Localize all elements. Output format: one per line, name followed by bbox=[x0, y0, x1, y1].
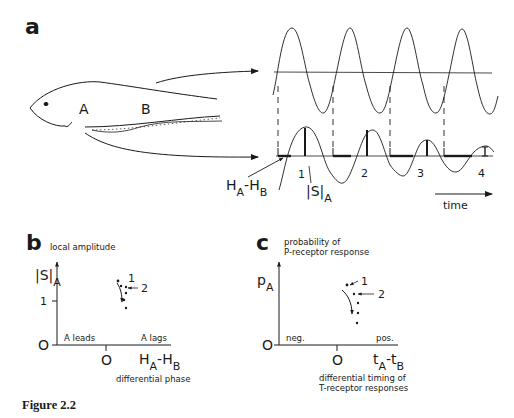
panel-c-y-title-line2: P-receptor response bbox=[284, 247, 369, 257]
panel-b-region-left: A leads bbox=[64, 333, 96, 343]
upper-sine-trace bbox=[273, 28, 498, 114]
arrow-to-lower-trace bbox=[85, 133, 258, 157]
beat-number-4: 4 bbox=[478, 167, 485, 180]
fish-point-b-label: B bbox=[141, 101, 151, 117]
svg-text:HA-HB: HA-HB bbox=[226, 177, 267, 199]
panel-b-annotation-1: 1 bbox=[128, 272, 135, 285]
panel-c-region-right: pos. bbox=[376, 333, 394, 343]
panel-c-y-title-line1: probability of bbox=[284, 237, 341, 247]
panel-c: c probability of P-receptor response pA … bbox=[256, 230, 409, 393]
panel-b-origin-y: O bbox=[38, 337, 49, 353]
panel-b-x-symbol: HA-HB bbox=[139, 351, 180, 373]
fish-drawing bbox=[30, 82, 222, 132]
beat-number-3: 3 bbox=[417, 167, 424, 180]
figure-2-2: a A B bbox=[0, 0, 514, 418]
panel-c-letter: c bbox=[256, 230, 269, 255]
phase-pointer-arrow bbox=[248, 158, 283, 177]
panel-c-annotation-1: 1 bbox=[361, 275, 368, 288]
panel-b-y-title: local amplitude bbox=[50, 242, 115, 252]
panel-c-origin-y: O bbox=[262, 337, 273, 353]
panel-b-letter: b bbox=[26, 230, 42, 255]
panel-b-origin-x: O bbox=[101, 352, 112, 368]
panel-b-region-right: A lags bbox=[141, 333, 167, 343]
panel-c-trend-arrow bbox=[342, 290, 352, 314]
beat-number-1: 1 bbox=[298, 168, 305, 181]
panel-c-region-left: neg. bbox=[286, 333, 305, 343]
panel-a-letter: a bbox=[25, 14, 40, 39]
amplitude-pointer-line bbox=[309, 166, 311, 183]
lower-beat-trace bbox=[276, 127, 494, 190]
beat-number-2: 2 bbox=[361, 167, 368, 180]
panel-b: b local amplitude |S|A 1 O O A leads A l… bbox=[26, 230, 190, 384]
arrow-to-upper-trace bbox=[156, 71, 258, 83]
panel-b-y-tick-1: 1 bbox=[40, 295, 47, 308]
dashed-guides bbox=[278, 86, 444, 152]
panel-c-y-symbol: pA bbox=[257, 272, 274, 294]
panel-c-x-symbol: tA-tB bbox=[373, 351, 404, 373]
panel-c-origin-x: O bbox=[332, 352, 343, 368]
panel-c-data-points bbox=[346, 284, 360, 325]
panel-b-annotation-2: 2 bbox=[141, 282, 148, 295]
panel-a: a A B bbox=[25, 14, 498, 212]
panel-c-x-title-line1: differential timing of bbox=[319, 373, 407, 383]
panel-b-x-title: differential phase bbox=[116, 374, 190, 384]
time-label: time bbox=[443, 199, 468, 212]
panel-c-x-title-line2: T-receptor responses bbox=[318, 383, 409, 393]
figure-caption: Figure 2.2 bbox=[22, 398, 76, 413]
panel-c-annotation-2: 2 bbox=[378, 288, 385, 301]
amplitude-label: |S|A bbox=[306, 183, 332, 205]
fish-point-a-label: A bbox=[79, 101, 89, 117]
phase-difference-label: HA-HB bbox=[226, 177, 267, 199]
